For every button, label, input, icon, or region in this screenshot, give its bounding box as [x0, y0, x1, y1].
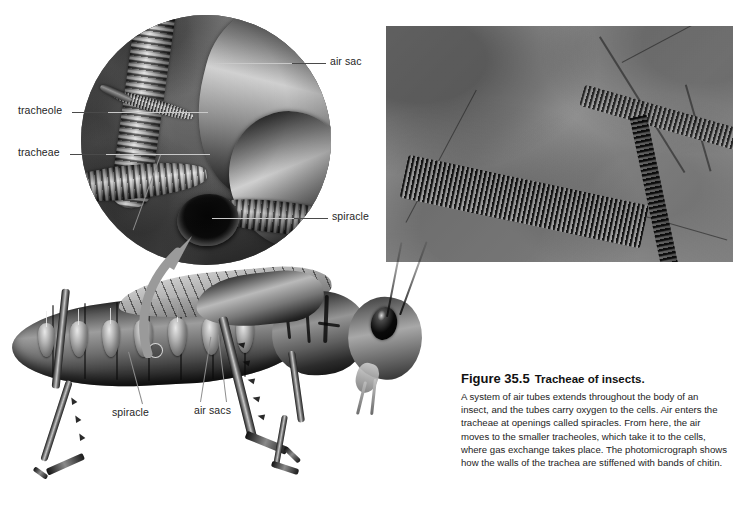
figure-number: Figure 35.5	[461, 371, 530, 386]
leader-tracheole	[72, 112, 108, 113]
tracheal-tube	[110, 308, 111, 324]
tibial-spine	[77, 432, 86, 441]
tracheal-tube	[78, 309, 79, 325]
leader-tracheole-inner	[96, 112, 208, 113]
figure-35-5-tracheae-of-insects: tracheole tracheae air sac spiracle spir…	[0, 0, 748, 524]
photomicrograph-panel	[386, 26, 733, 262]
label-spiracle-body: spiracle	[112, 406, 149, 418]
middle-tibia	[40, 380, 73, 462]
caption-body: A system of air tubes extends throughout…	[461, 390, 727, 469]
tibial-spine	[69, 396, 78, 405]
front-tarsus	[271, 461, 299, 475]
leader-air-sac	[292, 63, 326, 64]
grasshopper-illustration	[0, 255, 470, 524]
caption-heading: Figure 35.5Tracheae of insects.	[461, 371, 727, 387]
label-tracheae: tracheae	[18, 146, 60, 158]
label-air-sac: air sac	[330, 55, 362, 67]
tibial-spine	[73, 414, 82, 423]
arrow-abdomen-to-spiracle	[118, 218, 228, 358]
hind-claw	[283, 446, 301, 463]
label-air-sacs-body: air sacs	[194, 404, 231, 416]
leader-spiracle-inset	[294, 218, 328, 219]
tracheal-tube	[46, 311, 47, 327]
label-tracheole: tracheole	[18, 104, 62, 116]
middle-tarsus	[46, 453, 85, 476]
tibial-spine	[247, 377, 255, 385]
tibial-spine	[252, 395, 260, 403]
figure-title: Tracheae of insects.	[535, 373, 645, 385]
leader-tracheae	[70, 154, 106, 155]
leader-tracheae-inner	[92, 154, 210, 155]
figure-caption: Figure 35.5Tracheae of insects. A system…	[461, 371, 727, 469]
tibial-spine	[257, 413, 265, 421]
label-spiracle-inset: spiracle	[332, 210, 369, 222]
